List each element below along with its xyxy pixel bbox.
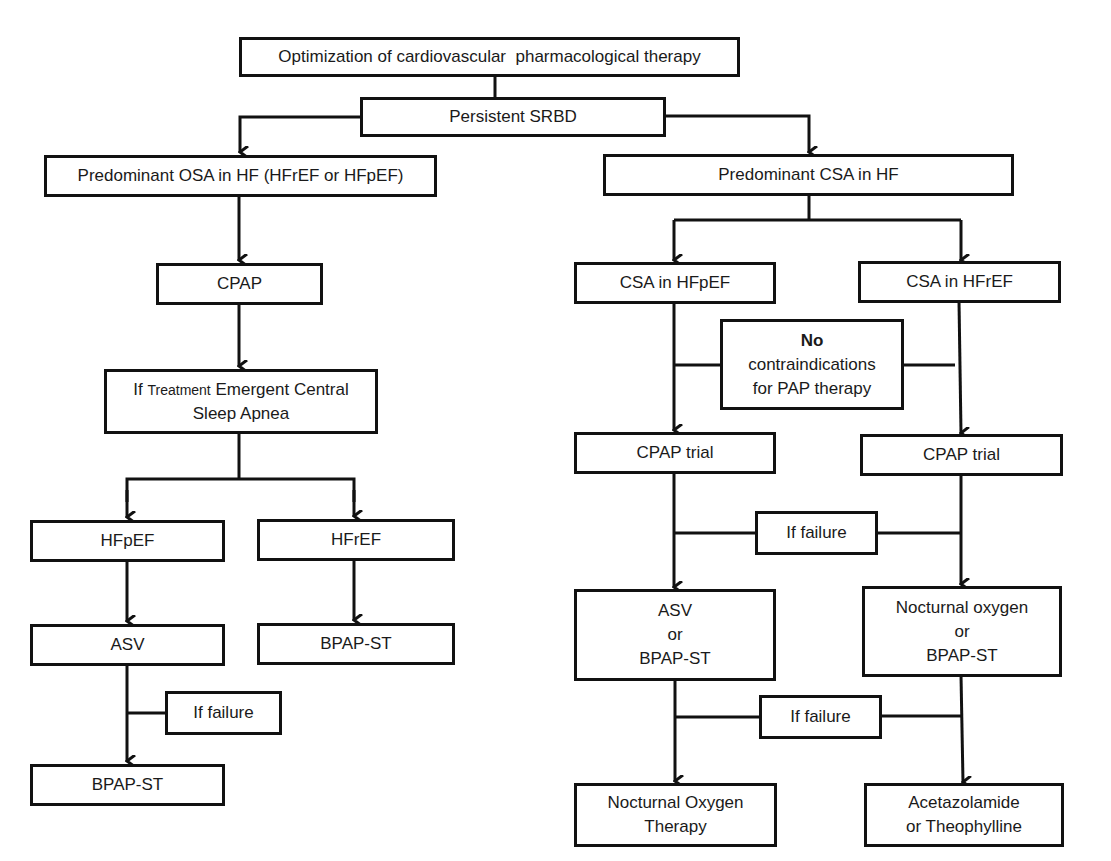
node-label-line2: Therapy	[644, 815, 706, 839]
node-bpap-st-final: BPAP-ST	[30, 764, 225, 806]
node-treatment-emergent-csa: If Treatment Emergent Central Sleep Apne…	[104, 369, 378, 434]
node-cpap-trial-hfref: CPAP trial	[860, 434, 1063, 476]
node-nocturnal-oxygen-therapy: Nocturnal Oxygen Therapy	[574, 783, 777, 847]
node-label: BPAP-ST	[92, 773, 163, 797]
node-bpap-st-hfref: BPAP-ST	[257, 623, 455, 665]
node-label: If failure	[193, 701, 253, 725]
node-label-line2: Sleep Apnea	[193, 402, 289, 426]
node-label: If failure	[790, 705, 850, 729]
node-label: CSA in HFrEF	[906, 270, 1013, 294]
node-label: CPAP trial	[637, 441, 714, 465]
node-label-line2: or	[667, 623, 682, 647]
node-if-failure-mid2: If failure	[759, 695, 882, 739]
node-if-failure-left: If failure	[165, 691, 282, 735]
node-label: Predominant OSA in HF (HFrEF or HFpEF)	[78, 164, 404, 188]
node-label-line1: No	[801, 329, 824, 353]
node-no-contraindications: No contraindications for PAP therapy	[720, 319, 904, 410]
node-cpap-trial-hfpef: CPAP trial	[574, 432, 776, 474]
node-label: Optimization of cardiovascular pharmacol…	[278, 45, 700, 69]
node-predominant-csa: Predominant CSA in HF	[603, 154, 1014, 196]
node-label-line1: If Treatment Emergent Central	[133, 378, 348, 402]
node-label: CPAP	[217, 272, 262, 296]
node-label: BPAP-ST	[320, 632, 391, 656]
node-label-line1: Acetazolamide	[908, 791, 1020, 815]
node-label: HFrEF	[331, 528, 381, 552]
node-label-line2: contraindications	[748, 353, 876, 377]
node-optimization-therapy: Optimization of cardiovascular pharmacol…	[239, 37, 740, 77]
node-if-failure-mid1: If failure	[755, 511, 878, 555]
node-label: Predominant CSA in HF	[718, 163, 898, 187]
node-acetazolamide-theophylline: Acetazolamide or Theophylline	[864, 783, 1064, 847]
node-asv: ASV	[30, 624, 225, 666]
node-label-line3: for PAP therapy	[753, 377, 871, 401]
node-label-line1: Nocturnal oxygen	[896, 596, 1028, 620]
node-hfref: HFrEF	[257, 519, 455, 561]
node-label: If failure	[786, 521, 846, 545]
node-label: CPAP trial	[923, 443, 1000, 467]
node-label-line3: BPAP-ST	[926, 644, 997, 668]
node-cpap: CPAP	[156, 263, 323, 305]
node-label-line1: Nocturnal Oxygen	[607, 791, 743, 815]
node-label-line1: ASV	[658, 599, 692, 623]
node-label: Persistent SRBD	[449, 105, 577, 129]
node-csa-hfpef: CSA in HFpEF	[574, 262, 776, 304]
node-csa-hfref: CSA in HFrEF	[858, 261, 1061, 303]
node-hfpef: HFpEF	[30, 520, 225, 562]
node-nocturnal-oxygen-or-bpap-st: Nocturnal oxygen or BPAP-ST	[862, 586, 1062, 677]
node-label-line2: or	[954, 620, 969, 644]
node-label: ASV	[110, 633, 144, 657]
node-label: HFpEF	[101, 529, 155, 553]
node-predominant-osa: Predominant OSA in HF (HFrEF or HFpEF)	[44, 155, 437, 197]
node-label: CSA in HFpEF	[620, 271, 731, 295]
node-asv-or-bpap-st: ASV or BPAP-ST	[574, 589, 776, 681]
node-label-line2: or Theophylline	[906, 815, 1022, 839]
node-persistent-srbd: Persistent SRBD	[360, 97, 666, 137]
node-label-line3: BPAP-ST	[639, 647, 710, 671]
